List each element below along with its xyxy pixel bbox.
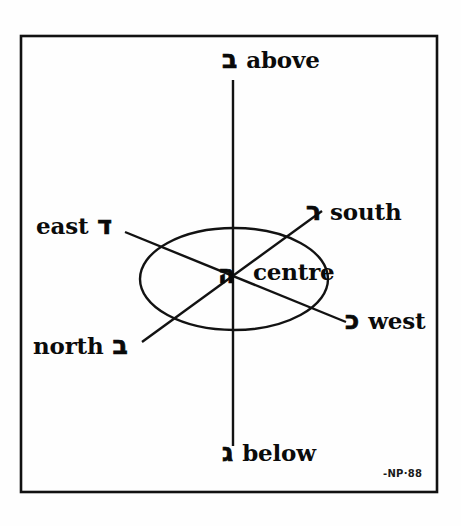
hebrew-letter-north: ב	[113, 332, 128, 358]
hebrew-letter-centre-wrap: ה	[218, 262, 235, 287]
label-below: ג below	[222, 440, 316, 465]
hebrew-letter-centre: ה	[218, 261, 235, 287]
hebrew-letter-south: ר	[306, 198, 321, 224]
label-below-text: below	[242, 441, 316, 464]
hebrew-letter-below: ג	[222, 439, 233, 465]
label-above-text: above	[246, 48, 319, 71]
label-west-text: west	[368, 309, 425, 332]
label-north-text: north	[33, 334, 104, 357]
hebrew-letter-above: ב	[222, 46, 237, 72]
hebrew-letter-west: כ	[345, 307, 359, 333]
label-south-text: south	[330, 200, 401, 223]
label-east-text: east	[36, 214, 88, 237]
label-south: ר south	[306, 199, 401, 224]
hebrew-letter-east: ד	[97, 212, 112, 238]
artist-signature: -NP·88	[383, 468, 422, 479]
figure-canvas: ב above ג below east ד ר south כ west no…	[0, 0, 461, 526]
label-above: ב above	[222, 47, 320, 72]
label-centre-text: centre	[253, 260, 335, 283]
label-north: north ב	[33, 333, 128, 358]
label-east: east ד	[36, 213, 112, 238]
label-centre: centre	[253, 260, 335, 283]
label-west: כ west	[345, 308, 425, 333]
